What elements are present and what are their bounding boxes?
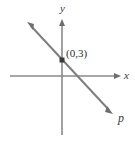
line-p-arrowhead-upper-left-icon xyxy=(27,22,34,30)
line-graph-figure: y x p (0,3) xyxy=(0,0,135,141)
line-p-group xyxy=(27,22,113,114)
line-p-segment xyxy=(31,26,109,110)
y-axis-group xyxy=(59,19,65,135)
y-axis-label: y xyxy=(60,3,65,14)
x-axis-group xyxy=(10,73,121,79)
y-intercept-point-marker xyxy=(60,58,65,63)
x-axis-label: x xyxy=(124,70,129,81)
line-p-label: p xyxy=(118,113,124,124)
y-axis-arrowhead-icon xyxy=(59,19,65,26)
y-intercept-coordinate-label: (0,3) xyxy=(66,48,87,59)
x-axis-arrowhead-icon xyxy=(114,73,121,79)
coordinate-plane-svg xyxy=(0,0,135,141)
